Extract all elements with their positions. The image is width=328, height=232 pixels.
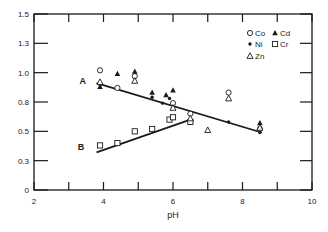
chart-canvas: 246810pH00.30.50.81.01.31.5 AB CoCdNiCrZ… (0, 0, 328, 232)
point-cr (97, 143, 102, 148)
point-zn (187, 115, 193, 121)
y-tick-label: 0.8 (18, 98, 30, 107)
point-cr (170, 115, 175, 120)
x-tick-label: 4 (101, 197, 106, 206)
y-tick-label: 1.5 (18, 10, 30, 19)
x-tick-label: 10 (308, 197, 317, 206)
point-cr (132, 129, 137, 134)
point-zn (226, 95, 232, 101)
legend-co-label: Co (255, 29, 266, 38)
legend: CoCdNiCrZn (247, 29, 290, 61)
legend-co-icon (247, 30, 252, 35)
y-tick-label: 0 (25, 186, 30, 195)
point-co (115, 85, 120, 90)
fit-lines (97, 83, 262, 152)
x-axis-label: pH (167, 210, 179, 220)
point-cd (115, 71, 121, 76)
y-tick-label: 1.0 (18, 69, 30, 78)
point-ni (227, 120, 230, 123)
y-tick-label: 1.3 (18, 39, 30, 48)
point-ni (258, 131, 261, 134)
point-cr (115, 140, 120, 145)
y-tick-label: 0.3 (18, 157, 30, 166)
legend-cr-label: Cr (280, 40, 289, 49)
point-cd (170, 87, 176, 92)
point-ni (168, 97, 171, 100)
point-co (97, 68, 102, 73)
line-label-a: A (79, 76, 86, 86)
point-ni (150, 96, 153, 99)
point-cd (163, 92, 169, 97)
x-tick-label: 8 (240, 197, 245, 206)
legend-cr-icon (272, 41, 277, 46)
fit-line-a (97, 83, 262, 132)
legend-ni-icon (248, 42, 251, 45)
y-tick-label: 0.5 (18, 127, 30, 136)
fit-line-b (97, 120, 191, 153)
legend-cd-label: Cd (280, 29, 290, 38)
point-zn (205, 127, 211, 133)
legend-zn-label: Zn (255, 52, 264, 61)
legend-zn-icon (247, 53, 253, 59)
point-cr (150, 126, 155, 131)
line-label-b: B (78, 142, 85, 152)
x-tick-label: 6 (171, 197, 176, 206)
point-ni (161, 101, 164, 104)
line-labels: AB (78, 76, 87, 152)
legend-cd-icon (272, 30, 278, 35)
legend-ni-label: Ni (255, 40, 263, 49)
ph-scatter-chart: 246810pH00.30.50.81.01.31.5 AB CoCdNiCrZ… (0, 0, 328, 232)
point-cd (149, 90, 155, 95)
x-tick-label: 2 (32, 197, 37, 206)
point-cd (132, 68, 138, 73)
point-zn (132, 78, 138, 84)
point-zn (97, 79, 103, 85)
